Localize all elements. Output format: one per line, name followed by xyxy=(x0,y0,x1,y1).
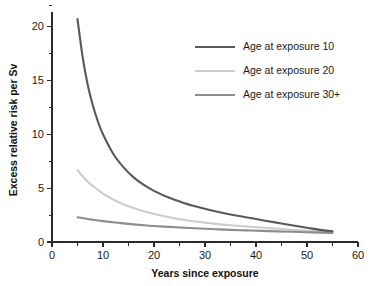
legend-label: Age at exposure 10 xyxy=(243,40,334,52)
y-tick-label: 15 xyxy=(32,74,44,86)
x-axis-title: Years since exposure xyxy=(151,267,259,279)
legend-label: Age at exposure 20 xyxy=(243,64,334,76)
legend-item: Age at exposure 30+ xyxy=(195,88,340,100)
x-tick-label: 50 xyxy=(301,249,313,261)
y-tick-label: 20 xyxy=(32,20,44,32)
excess-relative-risk-line-chart: 05101520 0102030405060 Age at exposure 1… xyxy=(0,0,380,286)
chart-container: 05101520 0102030405060 Age at exposure 1… xyxy=(0,0,380,286)
y-axis: 05101520 xyxy=(32,5,52,248)
y-axis-title: Excess relative risk per Sv xyxy=(7,64,19,197)
x-tick-label: 20 xyxy=(148,249,160,261)
legend-label: Age at exposure 30+ xyxy=(243,88,340,100)
legend-item: Age at exposure 20 xyxy=(195,64,334,76)
legend-item: Age at exposure 10 xyxy=(195,40,334,52)
y-tick-label: 5 xyxy=(38,182,44,194)
y-tick-label: 10 xyxy=(32,128,44,140)
x-tick-label: 30 xyxy=(199,249,211,261)
x-axis: 0102030405060 xyxy=(49,242,364,261)
x-tick-label: 60 xyxy=(352,249,364,261)
x-tick-label: 10 xyxy=(97,249,109,261)
y-tick-label: 0 xyxy=(38,236,44,248)
x-tick-label: 40 xyxy=(250,249,262,261)
chart-legend: Age at exposure 10Age at exposure 20Age … xyxy=(195,40,340,100)
x-tick-label: 0 xyxy=(49,249,55,261)
